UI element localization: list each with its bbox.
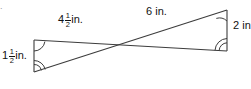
label-left-side-whole: 1 [2, 49, 8, 61]
label-top-right-side-unit: in. [155, 5, 167, 17]
label-top-left-side-whole: 4 [58, 13, 64, 25]
figure-screenshot: . 112in. 412in. 6 in. 2 in. [0, 0, 251, 89]
angle-arc-top-right-single [216, 18, 227, 21]
label-left-side: 112in. [2, 48, 27, 64]
angle-arc-top-left-single [34, 42, 45, 51]
angle-arc-bottom-right-outer [215, 39, 227, 51]
label-top-left-side-denominator: 2 [65, 21, 71, 29]
label-top-left-side-numerator: 1 [65, 12, 71, 20]
label-left-side-numerator: 1 [9, 48, 15, 56]
label-top-right-side: 6 in. [146, 6, 167, 17]
angle-arc-bottom-right-inner [219, 43, 227, 51]
label-left-side-unit: in. [15, 49, 27, 61]
geometry-diagram [0, 0, 251, 89]
label-right-side-value: 2 [233, 19, 239, 31]
label-top-left-side-unit: in. [71, 13, 83, 25]
label-right-side-unit: in. [242, 19, 251, 31]
label-left-side-fraction: 12 [9, 48, 15, 64]
label-top-right-side-value: 6 [146, 5, 152, 17]
label-right-side: 2 in. [233, 20, 251, 31]
segment-topleft-to-bottomright [34, 40, 227, 51]
label-top-left-side: 412in. [58, 12, 83, 28]
label-top-left-side-fraction: 12 [65, 12, 71, 28]
label-left-side-denominator: 2 [9, 57, 15, 65]
